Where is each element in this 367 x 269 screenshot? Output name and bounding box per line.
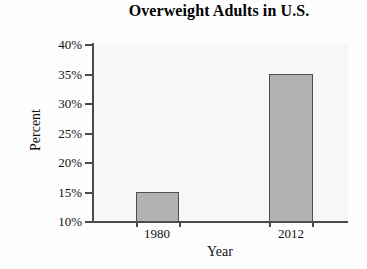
chart-title: Overweight Adults in U.S. — [88, 2, 350, 20]
y-axis-tick — [85, 44, 93, 46]
y-axis-tick — [85, 103, 93, 105]
x-axis-tick-label-2012: 2012 — [256, 226, 326, 242]
y-axis-label: Percent — [28, 75, 44, 185]
x-axis-label: Year — [150, 244, 290, 260]
y-axis-tick — [85, 74, 93, 76]
y-axis-tick — [85, 133, 93, 135]
y-axis-tick-label: 15% — [36, 185, 82, 201]
y-axis-tick — [85, 162, 93, 164]
y-axis-tick — [85, 221, 93, 223]
bar-2012[interactable] — [269, 74, 313, 222]
bar-chart-figure: Overweight Adults in U.S. 40% 35% 30% 25… — [0, 0, 367, 269]
x-axis-tick-label-1980: 1980 — [122, 226, 192, 242]
y-axis-tick — [85, 192, 93, 194]
y-axis-tick-label: 40% — [36, 37, 82, 53]
bar-1980[interactable] — [136, 192, 179, 222]
y-axis-tick-label: 10% — [36, 214, 82, 230]
